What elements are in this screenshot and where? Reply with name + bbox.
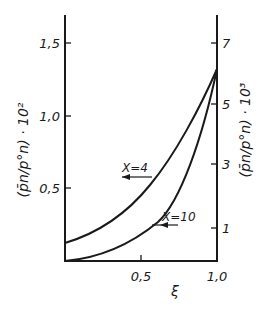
left-tick-label-05: 0,5 (39, 181, 60, 196)
x-axis-title: ξ (170, 283, 179, 299)
right-tick-label-1: 1 (222, 221, 230, 236)
x-tick-label-05: 0,5 (131, 269, 152, 284)
chart: 1,5 1,0 0,5 7 5 3 1 0,5 1,0 ξ (p̄n/p°n) … (0, 0, 270, 310)
right-tick-label-5: 5 (222, 97, 230, 112)
curve-label-x10: X=10 (161, 210, 196, 224)
right-tick-label-3: 3 (222, 157, 230, 172)
x-tick-label-10: 1,0 (207, 269, 228, 284)
right-axis-title: (p̄n/p°n) · 10³ (237, 82, 253, 177)
curve-label-x4: X=4 (121, 161, 148, 175)
left-tick-label-10: 1,0 (39, 109, 60, 124)
left-tick-label-15: 1,5 (39, 36, 60, 51)
left-axis-title: (p̄n/p°n) · 10² (15, 102, 31, 197)
right-tick-label-7: 7 (222, 36, 231, 51)
